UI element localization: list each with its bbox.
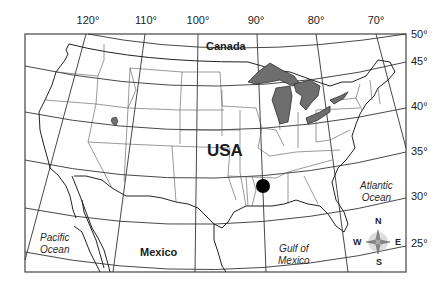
label-canada: Canada: [206, 41, 246, 52]
longitude-label-80: 80°: [308, 15, 325, 26]
longitude-label-100: 100°: [187, 15, 210, 26]
compass-west: W: [353, 238, 362, 247]
label-usa: USA: [207, 142, 243, 159]
label-gulf-of-mexico: Gulf of Mexico: [278, 243, 310, 267]
longitude-label-70: 70°: [368, 15, 385, 26]
latitude-label-40: 40°: [411, 101, 428, 112]
latitude-label-35: 35°: [411, 146, 428, 157]
location-marker: [256, 179, 270, 193]
label-pacific-ocean: Pacific Ocean: [40, 232, 69, 256]
latitude-label-30: 30°: [411, 191, 428, 202]
latitude-label-50: 50°: [411, 29, 428, 40]
label-mexico: Mexico: [140, 247, 177, 258]
compass-east: E: [395, 238, 401, 247]
longitude-label-110: 110°: [135, 15, 157, 26]
longitude-label-90: 90°: [248, 15, 265, 26]
latitude-label-45: 45°: [411, 56, 428, 67]
longitude-label-120: 120°: [77, 15, 100, 26]
compass-south: S: [376, 258, 382, 267]
latitude-label-25: 25°: [411, 238, 428, 249]
label-atlantic-ocean: Atlantic Ocean: [360, 180, 393, 204]
compass-north: N: [375, 217, 382, 226]
